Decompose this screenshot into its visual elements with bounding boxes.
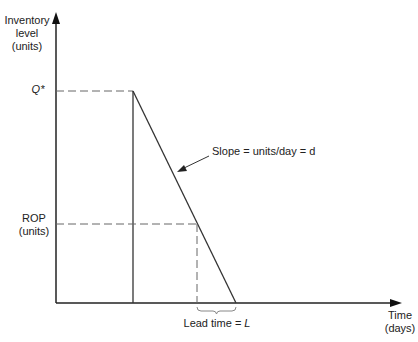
x-axis-label-line1: Time (382, 309, 418, 322)
x-axis-label-line2: (days) (382, 322, 418, 335)
x-axis-arrow-icon (390, 299, 402, 307)
lead-time-label: Lead time = L (175, 317, 259, 330)
y-axis-label: Inventory level (units) (4, 14, 50, 53)
rop-label: ROP (units) (16, 212, 52, 238)
inventory-diagram (0, 0, 418, 342)
y-axis-label-line1: Inventory (4, 14, 50, 27)
y-axis-label-line3: (units) (4, 40, 50, 53)
rop-label-line2: (units) (16, 225, 52, 238)
x-axis-label: Time (days) (382, 309, 418, 335)
rop-label-line1: ROP (16, 212, 52, 225)
lead-time-label-text: Lead time = (184, 317, 245, 329)
q-star-label: Q* (30, 83, 46, 96)
lead-time-brace (197, 307, 236, 314)
slope-pointer-arrow-icon (177, 165, 187, 172)
y-axis-arrow-icon (52, 12, 60, 24)
lead-time-symbol: L (244, 317, 250, 329)
slope-label: Slope = units/day = d (212, 145, 315, 158)
depletion-slope-line (133, 91, 236, 303)
slope-pointer-line (182, 156, 209, 169)
y-axis-label-line2: level (4, 27, 50, 40)
